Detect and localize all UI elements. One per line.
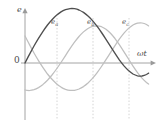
origin-label: 0 — [14, 56, 20, 65]
three-phase-waveform-figure: e 0 ωt ea eb ec — [0, 0, 162, 127]
curve-label-eb-sub: b — [91, 21, 94, 27]
x-axis-label: ωt — [137, 50, 147, 58]
curve-e-b — [25, 23, 149, 91]
y-axis-arrowhead — [22, 8, 27, 13]
y-axis-label: e — [17, 6, 22, 14]
curve-label-ea: ea — [51, 19, 58, 27]
curve-label-ec: ec — [122, 19, 129, 27]
curve-label-eb: eb — [87, 19, 94, 27]
curve-e-c — [25, 26, 149, 91]
dotted-gridlines — [57, 18, 129, 120]
x-axis-arrowhead — [151, 61, 156, 66]
waveform-plot — [0, 0, 162, 127]
curve-label-ec-sub: c — [126, 21, 129, 27]
curve-label-ea-sub: a — [55, 21, 58, 27]
